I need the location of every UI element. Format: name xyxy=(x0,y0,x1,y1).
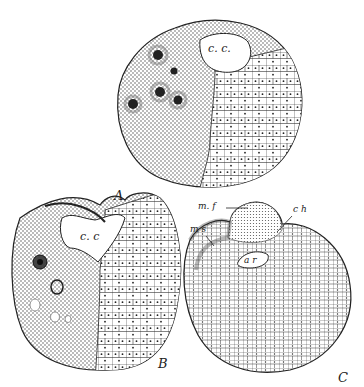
label-ch: c h xyxy=(293,204,307,214)
figure-b xyxy=(12,180,200,380)
figure-a-label: A xyxy=(114,188,123,203)
label-ar: a r xyxy=(244,255,257,265)
figure-c xyxy=(184,202,351,372)
label-mf: m. f xyxy=(198,201,216,211)
label-ms: m s xyxy=(190,224,206,234)
embryo-illustrations xyxy=(0,0,364,387)
figure-c-label: C xyxy=(338,370,348,385)
label-b-cavity: c. c xyxy=(80,230,99,243)
figure-b-label: B xyxy=(158,356,168,371)
label-a-cavity: c. c. xyxy=(208,42,231,55)
